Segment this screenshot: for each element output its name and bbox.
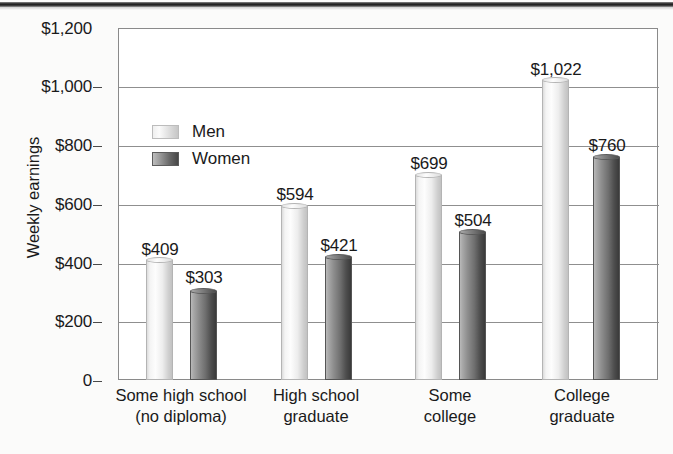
y-tick-label-200: $200 bbox=[55, 312, 92, 332]
data-label-women-3: $504 bbox=[454, 211, 491, 231]
x-category-high-school-graduate: High school graduate bbox=[273, 385, 359, 427]
x-category-line-1: Some bbox=[424, 385, 476, 406]
x-category-line-2: (no diploma) bbox=[115, 406, 246, 427]
y-tick-label-1200: $1,200 bbox=[41, 19, 92, 39]
y-tick-mark-400 bbox=[93, 264, 102, 265]
bar-body bbox=[542, 80, 569, 380]
x-category-line-2: graduate bbox=[273, 406, 359, 427]
x-category-line-2: graduate bbox=[549, 406, 614, 427]
bar-body bbox=[325, 257, 352, 380]
x-category-line-2: college bbox=[424, 406, 476, 427]
bar-body bbox=[459, 232, 486, 380]
bar-chart-figure: Weekly earnings $1,200 $1,000 $800 $600 … bbox=[0, 0, 673, 454]
data-label-women-4: $760 bbox=[588, 136, 625, 156]
bar-men-college-graduate[interactable] bbox=[542, 80, 569, 380]
data-label-men-1: $409 bbox=[141, 240, 178, 260]
data-label-women-2: $421 bbox=[320, 236, 357, 256]
bar-women-college-graduate[interactable] bbox=[593, 157, 620, 380]
y-tick-mark-0 bbox=[93, 381, 102, 382]
bar-body bbox=[593, 157, 620, 380]
bar-body bbox=[415, 175, 442, 380]
y-tick-label-800: $800 bbox=[55, 136, 92, 156]
x-category-some-college: Some college bbox=[424, 385, 476, 427]
bar-women-some-high-school[interactable] bbox=[190, 291, 217, 380]
y-axis: Weekly earnings $1,200 $1,000 $800 $600 … bbox=[0, 0, 118, 454]
y-tick-label-1000: $1,000 bbox=[41, 77, 92, 97]
bar-men-some-high-school[interactable] bbox=[146, 260, 173, 380]
x-category-some-high-school: Some high school (no diploma) bbox=[115, 385, 246, 427]
data-label-women-1: $303 bbox=[185, 268, 222, 288]
y-tick-mark-600 bbox=[93, 205, 102, 206]
bar-body bbox=[190, 291, 217, 380]
bar-body bbox=[146, 260, 173, 380]
bar-women-some-college[interactable] bbox=[459, 232, 486, 380]
legend-label-men: Men bbox=[192, 122, 225, 142]
legend-swatch-women-icon bbox=[152, 152, 179, 166]
bar-men-some-college[interactable] bbox=[415, 175, 442, 380]
bar-men-high-school-graduate[interactable] bbox=[281, 206, 308, 380]
y-tick-mark-200 bbox=[93, 322, 102, 323]
data-label-men-4: $1,022 bbox=[531, 60, 582, 80]
y-axis-title: Weekly earnings bbox=[24, 118, 43, 278]
data-label-men-2: $594 bbox=[276, 185, 313, 205]
legend: Men Women bbox=[152, 118, 250, 172]
bar-cap bbox=[190, 288, 217, 294]
bar-women-high-school-graduate[interactable] bbox=[325, 257, 352, 380]
legend-item-men[interactable]: Men bbox=[152, 118, 250, 145]
bar-body bbox=[281, 206, 308, 380]
legend-item-women[interactable]: Women bbox=[152, 145, 250, 172]
data-label-men-3: $699 bbox=[410, 154, 447, 174]
x-category-line-1: Some high school bbox=[115, 385, 246, 406]
y-tick-label-0: 0 bbox=[83, 371, 92, 391]
y-tick-label-400: $400 bbox=[55, 254, 92, 274]
x-category-line-1: College bbox=[549, 385, 614, 406]
y-tick-mark-800 bbox=[93, 146, 102, 147]
x-category-line-1: High school bbox=[273, 385, 359, 406]
x-axis: Some high school (no diploma) High schoo… bbox=[118, 385, 658, 445]
legend-swatch-men-icon bbox=[152, 125, 179, 139]
bars-layer bbox=[118, 28, 658, 380]
x-category-college-graduate: College graduate bbox=[549, 385, 614, 427]
y-tick-mark-1000 bbox=[93, 87, 102, 88]
y-tick-label-600: $600 bbox=[55, 195, 92, 215]
legend-label-women: Women bbox=[192, 149, 250, 169]
